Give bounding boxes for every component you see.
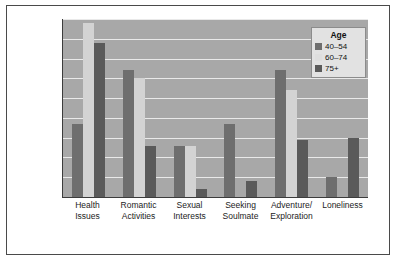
- bar: [246, 181, 257, 197]
- bar: [297, 140, 308, 197]
- y-tick-mark: [62, 197, 63, 198]
- x-tick-label-line: Exploration: [266, 211, 317, 222]
- bar: [185, 146, 196, 197]
- y-tick-mark: [62, 177, 63, 178]
- x-tick-label-line: Romantic: [113, 200, 164, 211]
- x-tick-label: HealthIssues: [62, 200, 113, 222]
- bar: [134, 78, 145, 197]
- bar: [123, 70, 134, 197]
- legend-title: Age: [315, 30, 362, 40]
- y-tick-mark: [62, 98, 63, 99]
- bar-group: [114, 19, 165, 197]
- y-tick-mark: [62, 137, 63, 138]
- legend-swatch-icon: [315, 43, 322, 50]
- x-axis-labels: HealthIssuesRomanticActivitiesSexualInte…: [62, 200, 368, 222]
- x-tick-label-line: Health: [62, 200, 113, 211]
- x-tick-label: SeekingSoulmate: [215, 200, 266, 222]
- legend-entry-label: 75+: [325, 64, 339, 73]
- x-tick-label-line: Interests: [164, 211, 215, 222]
- legend-swatch-icon: [315, 54, 322, 61]
- bar: [326, 177, 337, 197]
- y-tick-mark: [62, 157, 63, 158]
- bar-group: [215, 19, 266, 197]
- x-tick-label-line: Seeking: [215, 200, 266, 211]
- x-tick-label-line: Sexual: [164, 200, 215, 211]
- bar-group: [63, 19, 114, 197]
- legend-entry-label: 40–54: [325, 42, 347, 51]
- x-tick-label-line: Soulmate: [215, 211, 266, 222]
- bar: [196, 189, 207, 197]
- y-tick-mark: [62, 38, 63, 39]
- bar: [94, 43, 105, 197]
- x-tick-label: SexualInterests: [164, 200, 215, 222]
- bar: [174, 146, 185, 197]
- bar: [286, 90, 297, 197]
- bar: [83, 23, 94, 197]
- bar: [224, 124, 235, 197]
- bar-group: [266, 19, 317, 197]
- x-tick-label-line: Activities: [113, 211, 164, 222]
- bar-group: [165, 19, 216, 197]
- chart-figure: 051015202530354045 Percentage Mentioning…: [0, 0, 396, 262]
- chart-legend: Age 40–5460–7475+: [311, 27, 366, 78]
- legend-entry: 75+: [315, 63, 362, 74]
- x-tick-label: Loneliness: [317, 200, 368, 222]
- legend-entry: 60–74: [315, 52, 362, 63]
- x-tick-label: Adventure/Exploration: [266, 200, 317, 222]
- legend-entry: 40–54: [315, 41, 362, 52]
- y-tick-mark: [62, 117, 63, 118]
- x-tick-label-line: Issues: [62, 211, 113, 222]
- y-tick-mark: [62, 78, 63, 79]
- legend-swatch-icon: [315, 65, 322, 72]
- x-tick-label-line: Adventure/: [266, 200, 317, 211]
- legend-entry-label: 60–74: [325, 53, 347, 62]
- y-tick-mark: [62, 58, 63, 59]
- y-tick-mark: [62, 19, 63, 20]
- bar: [72, 124, 83, 197]
- bar: [145, 146, 156, 197]
- legend-entries: 40–5460–7475+: [315, 41, 362, 74]
- bar: [348, 138, 359, 197]
- x-tick-label-line: Loneliness: [317, 200, 368, 211]
- bar: [275, 70, 286, 197]
- x-tick-label: RomanticActivities: [113, 200, 164, 222]
